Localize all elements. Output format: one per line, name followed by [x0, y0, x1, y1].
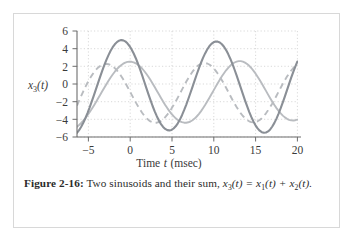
svg-text:x3(t): x3(t)	[27, 79, 48, 94]
curve-x1-solid-light	[77, 61, 297, 127]
y-tick-label: 4	[62, 43, 68, 55]
sinusoid-plot: 6 4 2 0 −2 −4 −6 −5 0 5 10 15 20 Timet(m…	[14, 14, 341, 169]
x-tick-label: 10	[208, 144, 220, 156]
caption-x1-arg: (t) +	[265, 177, 286, 189]
y-axis-title-arg: (t)	[37, 79, 48, 92]
y-tick-label: −6	[56, 131, 68, 143]
y-tick-label: 2	[62, 61, 68, 73]
y-tick-label: −2	[56, 96, 68, 108]
x-axis-title: Timet(msec)	[136, 157, 202, 169]
y-tick-label: 6	[62, 25, 68, 37]
caption-formula: x3(t) = x1(t) + x2(t).	[223, 177, 312, 189]
x-axis-title-prefix: Time	[136, 157, 160, 169]
x-tick-label: 0	[127, 144, 133, 156]
svg-text:Timet(msec): Timet(msec)	[136, 157, 202, 169]
x-tick-label: 15	[250, 144, 262, 156]
figure-caption: Figure 2-16: Two sinusoids and their sum…	[24, 176, 332, 196]
caption-x3-arg: (t) =	[232, 177, 253, 189]
x-tick-labels: −5 0 5 10 15 20	[82, 144, 303, 156]
y-tick-label: 0	[62, 78, 68, 90]
x-tick-label: 5	[169, 144, 175, 156]
axes	[73, 31, 302, 142]
x-tick-label: 20	[292, 144, 304, 156]
figure-card: 6 4 2 0 −2 −4 −6 −5 0 5 10 15 20 Timet(m…	[13, 13, 340, 228]
caption-text: Two sinusoids and their sum,	[86, 177, 219, 189]
caption-x2-arg: (t).	[298, 177, 312, 189]
grid-lines	[77, 31, 297, 137]
y-axis-title: x3(t)	[27, 79, 48, 94]
plot-region: 6 4 2 0 −2 −4 −6 −5 0 5 10 15 20 Timet(m…	[14, 14, 341, 169]
y-tick-label: −4	[56, 114, 68, 126]
x-axis-title-unit: (msec)	[170, 157, 201, 169]
caption-figure-number: Figure 2-16:	[24, 177, 84, 189]
curve-x2-dashed	[77, 63, 297, 123]
x-axis-title-var: t	[164, 157, 168, 169]
y-tick-labels: 6 4 2 0 −2 −4 −6	[56, 25, 69, 143]
x-tick-label: −5	[82, 144, 94, 156]
